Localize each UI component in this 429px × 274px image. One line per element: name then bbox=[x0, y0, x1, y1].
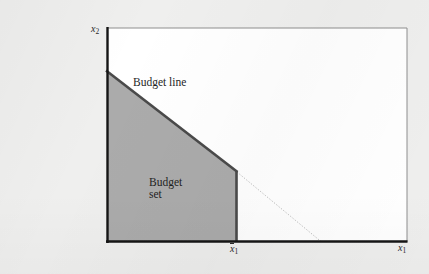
budget-set-annotation: Budgetset bbox=[149, 176, 182, 201]
budget-line-annotation: Budget line bbox=[133, 76, 186, 88]
figure-canvas: x2 x1 x1 Budget line Budgetset bbox=[0, 0, 429, 274]
budget-set-annotation-line2: set bbox=[149, 188, 182, 200]
x-bar-tick-label: x1 bbox=[230, 243, 238, 256]
x-bar-tick-label-subscript: 1 bbox=[234, 247, 238, 256]
x-axis-label: x1 bbox=[398, 243, 406, 255]
budget-constraint-figure bbox=[0, 0, 429, 274]
x-axis-label-subscript: 1 bbox=[402, 246, 406, 255]
budget-set-annotation-line1: Budget bbox=[149, 176, 182, 188]
y-axis-label: x2 bbox=[91, 24, 99, 36]
y-axis-label-subscript: 2 bbox=[95, 27, 99, 36]
budget-line-annotation-text: Budget line bbox=[133, 76, 186, 88]
